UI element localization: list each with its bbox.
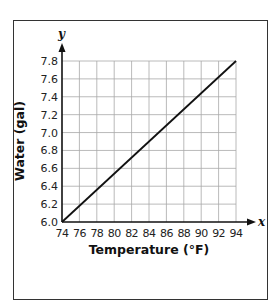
x-tick-label: 90	[195, 227, 208, 240]
y-tick-label: 7.2	[41, 109, 59, 122]
y-tick-label: 7.0	[41, 127, 59, 140]
x-tick-label: 92	[212, 227, 225, 240]
y-tick-label: 7.4	[41, 91, 59, 104]
y-tick-label: 6.0	[41, 216, 59, 229]
x-axis-letter: x	[257, 215, 266, 229]
x-tick-label: 86	[160, 227, 173, 240]
x-tick-label: 78	[90, 227, 103, 240]
x-tick-label: 84	[143, 227, 156, 240]
x-tick-labels: 7476788082848688909294	[56, 227, 243, 240]
y-tick-label: 6.8	[41, 144, 59, 157]
y-axis-letter: y	[57, 27, 66, 41]
x-tick-label: 80	[108, 227, 121, 240]
y-axis-label: Water (gal)	[12, 101, 27, 181]
y-tick-label: 6.4	[41, 180, 59, 193]
y-tick-label: 7.8	[41, 55, 59, 68]
x-axis-label: Temperature (°F)	[89, 242, 209, 257]
y-tick-label: 6.2	[41, 198, 59, 211]
y-tick-label: 6.6	[41, 162, 59, 175]
x-tick-label: 94	[230, 227, 243, 240]
y-tick-label: 7.6	[41, 73, 59, 86]
x-tick-label: 88	[177, 227, 190, 240]
y-tick-labels: 6.06.26.46.66.87.07.27.47.67.8	[41, 55, 59, 229]
x-tick-label: 76	[73, 227, 86, 240]
x-tick-label: 82	[125, 227, 138, 240]
